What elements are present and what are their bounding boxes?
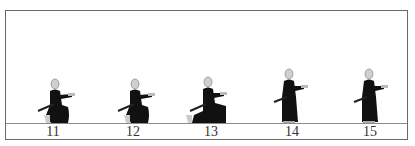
- frame-label-14: 14: [272, 125, 312, 139]
- figure-12: [104, 11, 184, 124]
- figure-14: [264, 11, 344, 124]
- frame-label-12: 12: [113, 125, 153, 139]
- figure-15: [344, 11, 415, 124]
- frame-label-11: 11: [33, 125, 73, 139]
- figure-13: [182, 11, 262, 124]
- frame-label-15: 15: [350, 125, 390, 139]
- figure-11: [24, 11, 104, 124]
- kneeling-figure-icon: [104, 11, 184, 124]
- frame-label-13: 13: [191, 125, 231, 139]
- standing-figure-icon: [264, 11, 344, 124]
- standing-figure-icon: [344, 11, 415, 124]
- diagram-frame: 11 12 13: [5, 10, 408, 140]
- kneeling-extended-figure-icon: [182, 11, 262, 124]
- kneeling-figure-icon: [24, 11, 104, 124]
